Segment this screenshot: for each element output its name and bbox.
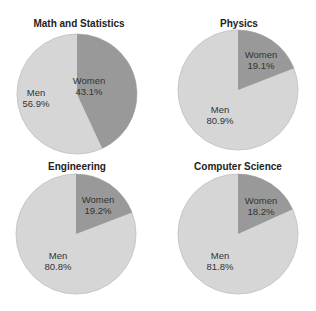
slice-label-men-cs: Men81.8% xyxy=(195,250,245,272)
slice-label-women-cs: Women18.2% xyxy=(236,195,286,217)
slice-label-women-engineering: Women19.2% xyxy=(73,194,123,216)
slice-label-men-physics: Men80.9% xyxy=(195,104,245,126)
slice-label-women-math: Women43.1% xyxy=(64,75,114,97)
slice-label-women-physics: Women19.1% xyxy=(236,49,286,71)
slice-label-men-engineering: Men80.8% xyxy=(33,250,83,272)
slice-label-men-math: Men56.9% xyxy=(11,87,61,109)
